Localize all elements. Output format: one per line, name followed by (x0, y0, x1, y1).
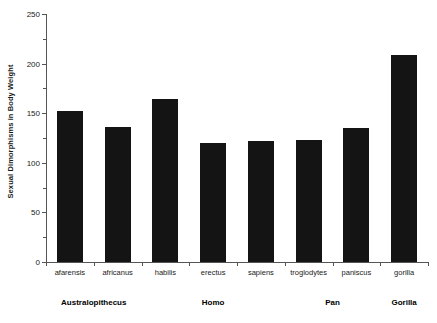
y-tick-label-50: 50 (31, 208, 40, 217)
genus-label-homo: Homo (202, 298, 225, 307)
y-tick-100 (42, 163, 47, 164)
y-minor-tick-125 (43, 138, 46, 139)
x-tick-8 (428, 262, 429, 266)
y-minor-tick-25 (43, 237, 46, 238)
bar-sapiens (248, 141, 274, 262)
y-tick-label-0: 0 (36, 258, 40, 267)
x-tick-4 (237, 262, 238, 266)
species-label-paniscus: paniscus (342, 268, 372, 277)
y-tick-200 (42, 64, 47, 65)
bar-paniscus (343, 128, 369, 262)
x-tick-7 (380, 262, 381, 266)
bar-africanus (105, 127, 131, 262)
y-tick-label-100: 100 (27, 158, 40, 167)
species-label-afarensis: afarensis (55, 268, 85, 277)
x-tick-2 (142, 262, 143, 266)
y-tick-50 (42, 212, 47, 213)
y-minor-tick-175 (43, 88, 46, 89)
species-label-troglodytes: troglodytes (290, 268, 327, 277)
x-tick-1 (94, 262, 95, 266)
bar-afarensis (57, 111, 83, 262)
y-tick-label-200: 200 (27, 59, 40, 68)
x-tick-3 (189, 262, 190, 266)
genus-label-gorilla: Gorilla (391, 298, 416, 307)
x-tick-6 (333, 262, 334, 266)
y-tick-150 (42, 113, 47, 114)
y-tick-label-250: 250 (27, 10, 40, 19)
genus-label-pan: Pan (325, 298, 340, 307)
species-label-sapiens: sapiens (248, 268, 274, 277)
species-label-erectus: erectus (201, 268, 226, 277)
y-axis-title-text: Sexual Dimorphisms in Body Weight (6, 64, 15, 198)
bar-erectus (200, 143, 226, 262)
y-axis-line (46, 14, 47, 262)
y-tick-250 (42, 14, 47, 15)
x-tick-5 (285, 262, 286, 266)
y-tick-label-150: 150 (27, 109, 40, 118)
y-axis-title: Sexual Dimorphisms in Body Weight (0, 0, 20, 262)
bar-troglodytes (296, 140, 322, 262)
genus-label-australopithecus: Australopithecus (61, 298, 126, 307)
species-label-gorilla: gorilla (394, 268, 414, 277)
y-minor-tick-75 (43, 188, 46, 189)
bar-gorilla (391, 55, 417, 262)
bar-habilis (152, 99, 178, 262)
species-label-africanus: africanus (102, 268, 132, 277)
y-minor-tick-225 (43, 39, 46, 40)
x-tick-0 (46, 262, 47, 266)
bar-chart: Sexual Dimorphisms in Body Weight 050100… (0, 0, 437, 323)
plot-area: 050100150200250 (46, 14, 428, 262)
species-label-habilis: habilis (155, 268, 176, 277)
